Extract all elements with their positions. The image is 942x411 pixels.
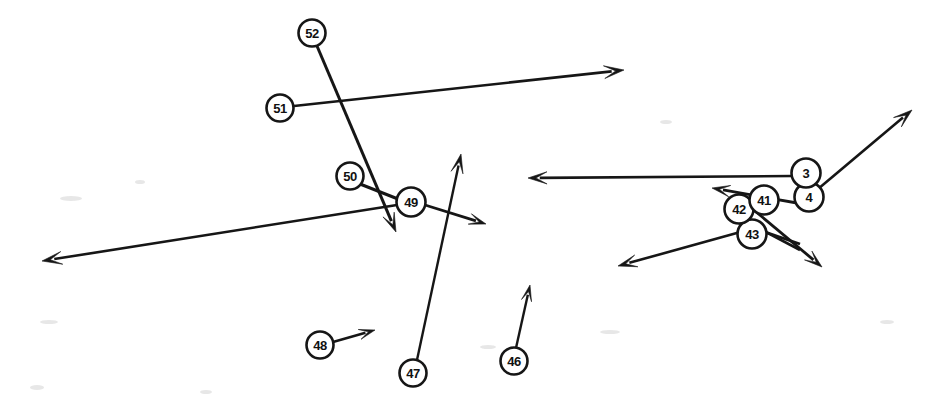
background-speck bbox=[880, 320, 894, 324]
edge-52-down-line bbox=[317, 46, 391, 221]
node-label-48: 48 bbox=[313, 338, 327, 353]
node-label-46: 46 bbox=[507, 354, 521, 369]
edge-layer bbox=[42, 46, 912, 360]
graph-node-50[interactable]: 50 bbox=[337, 163, 364, 190]
graph-node-51[interactable]: 51 bbox=[267, 95, 294, 122]
node-label-50: 50 bbox=[343, 169, 357, 184]
edge-49-left-line bbox=[54, 205, 397, 259]
edge-4-upright-line bbox=[818, 118, 903, 189]
edge-3-left-line bbox=[540, 176, 792, 178]
edge-3-left bbox=[528, 172, 792, 184]
edge-49-right bbox=[425, 205, 486, 224]
diagram-canvas: 5251504948474643424143 bbox=[0, 0, 942, 411]
node-layer: 5251504948474643424143 bbox=[267, 20, 824, 387]
edge-50-49 bbox=[360, 184, 398, 199]
background-speck bbox=[200, 390, 212, 394]
graph-node-46[interactable]: 46 bbox=[501, 348, 528, 375]
edge-49-left bbox=[42, 205, 397, 264]
node-label-3: 3 bbox=[803, 166, 810, 181]
edge-50-49-line bbox=[360, 184, 398, 199]
background-speck bbox=[30, 385, 44, 390]
edge-52-down bbox=[317, 46, 396, 232]
edge-51-right bbox=[294, 66, 624, 106]
node-label-4: 4 bbox=[806, 190, 814, 205]
edge-51-right-line bbox=[294, 71, 612, 106]
node-label-49: 49 bbox=[404, 195, 418, 210]
graph-node-41[interactable]: 41 bbox=[750, 186, 779, 215]
background-speck bbox=[600, 330, 620, 334]
graph-node-52[interactable]: 52 bbox=[299, 20, 326, 47]
edge-46-up bbox=[516, 285, 532, 348]
edge-46-up-line bbox=[516, 295, 528, 348]
diagram-svg: 5251504948474643424143 bbox=[0, 0, 942, 411]
edge-4-upright bbox=[818, 110, 912, 189]
node-label-47: 47 bbox=[406, 366, 420, 381]
graph-node-3[interactable]: 3 bbox=[792, 159, 821, 188]
node-label-42: 42 bbox=[732, 202, 746, 217]
graph-node-47[interactable]: 47 bbox=[400, 360, 427, 387]
edge-48-right bbox=[333, 329, 375, 342]
node-label-43: 43 bbox=[745, 227, 759, 242]
graph-node-49[interactable]: 49 bbox=[397, 188, 426, 217]
graph-node-48[interactable]: 48 bbox=[307, 332, 334, 359]
background-speck bbox=[660, 120, 672, 124]
node-label-52: 52 bbox=[305, 26, 319, 41]
node-label-41: 41 bbox=[757, 193, 771, 208]
edge-47-up bbox=[417, 154, 463, 360]
background-speck bbox=[40, 320, 58, 324]
background-speck bbox=[60, 196, 82, 201]
edge-48-right-line bbox=[333, 333, 365, 342]
background-speck bbox=[480, 345, 496, 349]
background-speck bbox=[135, 180, 145, 184]
node-label-51: 51 bbox=[273, 101, 287, 116]
